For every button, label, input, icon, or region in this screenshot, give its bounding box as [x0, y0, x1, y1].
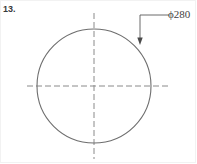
diameter-dimension-label: ϕ280	[168, 8, 190, 21]
technical-drawing-canvas	[0, 0, 197, 164]
leader-arrowhead-icon	[137, 38, 142, 46]
problem-number-label: 13.	[3, 4, 16, 15]
drawing-sheet: 13. ϕ280	[0, 0, 197, 164]
